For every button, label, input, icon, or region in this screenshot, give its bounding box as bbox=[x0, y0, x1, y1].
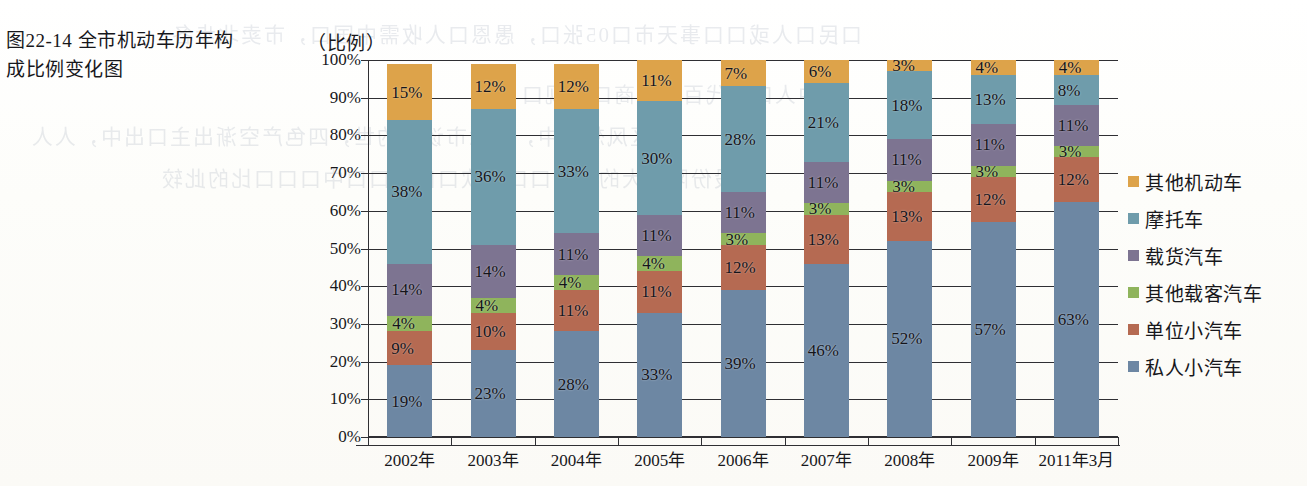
bar-segment-value: 33% bbox=[641, 366, 672, 383]
bar-segment-value: 6% bbox=[809, 63, 832, 80]
bar-segment[interactable]: 3% bbox=[971, 166, 1016, 177]
figure-caption: 图22-14 全市机动车历年构成比例变化图 bbox=[6, 26, 246, 84]
bar-segment[interactable]: 15% bbox=[387, 64, 432, 121]
bar-segment[interactable]: 57% bbox=[971, 222, 1016, 437]
bar-segment[interactable]: 11% bbox=[637, 215, 682, 256]
bar-segment[interactable]: 39% bbox=[721, 290, 766, 437]
bar-segment[interactable]: 4% bbox=[471, 298, 516, 313]
bar-segment-value: 4% bbox=[642, 255, 665, 272]
bar-segment-value: 12% bbox=[975, 191, 1006, 208]
bar-segment-value: 63% bbox=[1058, 311, 1089, 328]
bar-segment[interactable]: 7% bbox=[721, 60, 766, 86]
bar-segment[interactable]: 3% bbox=[887, 60, 932, 71]
bar-segment[interactable]: 12% bbox=[971, 177, 1016, 222]
bar-segment-value: 11% bbox=[641, 72, 672, 89]
bar-segment[interactable]: 13% bbox=[971, 75, 1016, 124]
bar-segment[interactable]: 14% bbox=[387, 264, 432, 317]
bar-segment[interactable]: 11% bbox=[1054, 105, 1099, 146]
stacked-bar-column[interactable]: 39%12%3%11%28%7% bbox=[721, 60, 766, 437]
bar-segment[interactable]: 63% bbox=[1054, 202, 1099, 437]
bar-segment[interactable]: 11% bbox=[554, 290, 599, 331]
legend-swatch-icon bbox=[1128, 324, 1139, 335]
bar-segment[interactable]: 28% bbox=[721, 86, 766, 192]
bar-segment[interactable]: 13% bbox=[887, 192, 932, 241]
bar-segment[interactable]: 46% bbox=[804, 264, 849, 437]
bar-segment[interactable]: 33% bbox=[554, 109, 599, 233]
y-axis-tick bbox=[361, 135, 368, 136]
y-axis-tick-label: 40% bbox=[330, 276, 361, 296]
legend-item[interactable]: 载货汽车 bbox=[1128, 242, 1262, 269]
bar-segment[interactable]: 21% bbox=[804, 83, 849, 162]
bar-segment[interactable]: 12% bbox=[1054, 157, 1099, 202]
bar-segment[interactable]: 11% bbox=[721, 192, 766, 233]
bar-segment[interactable]: 11% bbox=[887, 139, 932, 180]
legend-item[interactable]: 摩托车 bbox=[1128, 205, 1262, 232]
bar-segment[interactable]: 3% bbox=[887, 181, 932, 192]
bar-segment[interactable]: 30% bbox=[637, 101, 682, 214]
stacked-bar-column[interactable]: 23%10%4%14%36%12% bbox=[471, 60, 516, 437]
bar-segment[interactable]: 4% bbox=[971, 60, 1016, 75]
bar-segment-value: 3% bbox=[1059, 143, 1082, 160]
bar-segment[interactable]: 10% bbox=[471, 313, 516, 351]
bar-segment[interactable]: 3% bbox=[1054, 146, 1099, 157]
bar-segment-value: 36% bbox=[475, 168, 506, 185]
legend-item[interactable]: 其他载客汽车 bbox=[1128, 279, 1262, 306]
bar-segment[interactable]: 13% bbox=[804, 215, 849, 264]
stacked-bar-column[interactable]: 46%13%3%11%21%6% bbox=[804, 60, 849, 437]
bar-segment-value: 39% bbox=[725, 355, 756, 372]
x-axis-tick bbox=[451, 437, 452, 445]
stacked-bar-column[interactable]: 57%12%3%11%13%4% bbox=[971, 60, 1016, 437]
bar-segment[interactable]: 18% bbox=[887, 71, 932, 139]
bar-segment[interactable]: 11% bbox=[804, 162, 849, 203]
x-axis-label: 2007年 bbox=[801, 446, 852, 471]
bar-segment[interactable]: 4% bbox=[637, 256, 682, 271]
bar-segment[interactable]: 4% bbox=[387, 316, 432, 331]
bar-segment-value: 3% bbox=[892, 57, 915, 74]
stacked-bar-column[interactable]: 28%11%4%11%33%12% bbox=[554, 60, 599, 437]
bar-segment[interactable]: 9% bbox=[387, 331, 432, 365]
bar-segment-value: 11% bbox=[1058, 117, 1089, 134]
bar-segment[interactable]: 28% bbox=[554, 331, 599, 437]
bar-segment-value: 12% bbox=[475, 78, 506, 95]
bar-segment[interactable]: 14% bbox=[471, 245, 516, 298]
legend-item[interactable]: 其他机动车 bbox=[1128, 168, 1262, 195]
legend-item[interactable]: 私人小汽车 bbox=[1128, 353, 1262, 380]
bar-segment[interactable]: 12% bbox=[471, 64, 516, 109]
bar-segment[interactable]: 36% bbox=[471, 109, 516, 245]
stacked-bar-column[interactable]: 19%9%4%14%38%15% bbox=[387, 60, 432, 437]
bar-segment[interactable]: 3% bbox=[721, 233, 766, 244]
bar-segment[interactable]: 38% bbox=[387, 120, 432, 263]
stacked-bar-column[interactable]: 52%13%3%11%18%3% bbox=[887, 60, 932, 437]
y-axis-tick-label: 30% bbox=[330, 313, 361, 333]
bar-segment[interactable]: 8% bbox=[1054, 75, 1099, 105]
bar-segment-value: 3% bbox=[892, 178, 915, 195]
bar-segment[interactable]: 11% bbox=[971, 124, 1016, 165]
x-axis-tick bbox=[701, 437, 702, 445]
bar-segment[interactable]: 12% bbox=[721, 245, 766, 290]
legend-item[interactable]: 单位小汽车 bbox=[1128, 316, 1262, 343]
stacked-bar-column[interactable]: 33%11%4%11%30%11% bbox=[637, 60, 682, 437]
x-axis-label: 2011年3月 bbox=[1038, 446, 1114, 471]
x-axis-tick bbox=[1118, 437, 1119, 445]
bar-segment-value: 21% bbox=[808, 114, 839, 131]
bar-segment[interactable]: 11% bbox=[554, 233, 599, 274]
x-axis-label: 2005年 bbox=[634, 446, 685, 471]
bar-segment[interactable]: 11% bbox=[637, 271, 682, 312]
bar-segment[interactable]: 4% bbox=[1054, 60, 1099, 75]
bar-segment[interactable]: 52% bbox=[887, 241, 932, 437]
y-axis-tick bbox=[361, 362, 368, 363]
bar-segment[interactable]: 33% bbox=[637, 313, 682, 437]
bar-segment[interactable]: 12% bbox=[554, 64, 599, 109]
bar-segment-value: 14% bbox=[475, 263, 506, 280]
bar-segment[interactable]: 11% bbox=[637, 60, 682, 101]
bar-segment-value: 12% bbox=[725, 259, 756, 276]
x-axis-label: 2002年 bbox=[384, 446, 435, 471]
bar-segment[interactable]: 3% bbox=[804, 203, 849, 214]
bar-segment[interactable]: 19% bbox=[387, 365, 432, 437]
x-axis-tick bbox=[785, 437, 786, 445]
bar-segment[interactable]: 4% bbox=[554, 275, 599, 290]
stacked-bar-column[interactable]: 63%12%3%11%8%4% bbox=[1054, 60, 1099, 437]
y-axis-tick bbox=[361, 399, 368, 400]
bar-segment[interactable]: 23% bbox=[471, 350, 516, 437]
bar-segment[interactable]: 6% bbox=[804, 60, 849, 83]
